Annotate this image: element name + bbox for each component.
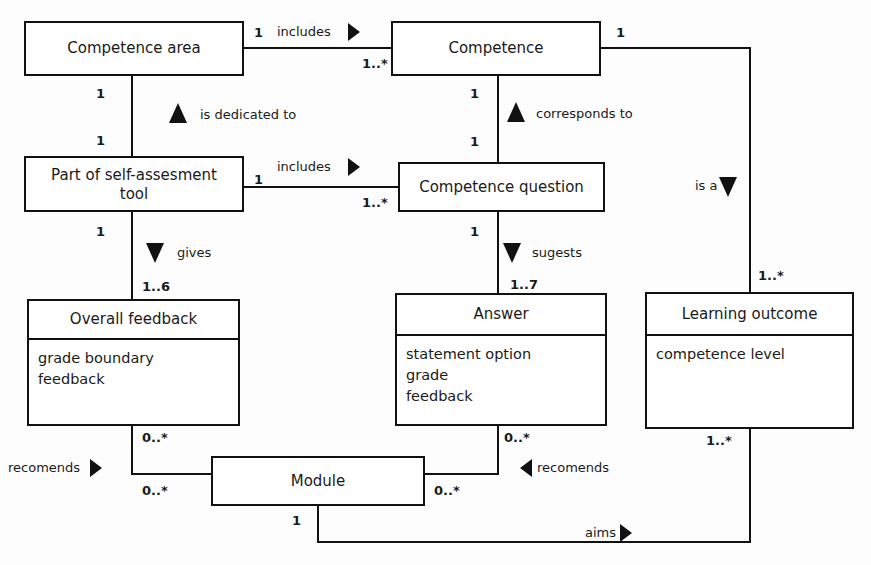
multiplicity-source: 1	[96, 224, 105, 239]
relationship-part-of-tool-gives-overall-feedback: gives11..6	[96, 211, 212, 300]
multiplicity-source: 1	[96, 86, 105, 101]
multiplicity-source: 1	[292, 513, 301, 528]
class-name: tool	[120, 185, 148, 203]
relationship-label: gives	[177, 245, 212, 260]
relationship-arrowhead-right	[348, 23, 360, 41]
multiplicity-target: 1..*	[706, 433, 732, 448]
relationship-arrowhead-right	[90, 459, 102, 477]
relationship-label: recomends	[8, 460, 80, 475]
relationship-arrowhead-left	[520, 459, 532, 477]
class-box-part-of-self-assesment-tool[interactable]: Part of self-assesmenttool	[25, 157, 243, 211]
class-attribute: statement option	[406, 346, 531, 362]
class-box-competence-area[interactable]: Competence area	[25, 22, 243, 75]
multiplicity-target: 1..7	[510, 277, 538, 292]
class-box-learning-outcome[interactable]: Learning outcomecompetence level	[646, 293, 853, 428]
class-attribute: feedback	[406, 388, 473, 404]
uml-class-diagram: includes11..*is dedicated to11includes11…	[0, 0, 871, 565]
class-name: Competence area	[67, 39, 200, 57]
multiplicity-target: 1	[96, 133, 105, 148]
relationship-competence-area-includes-competence: includes11..*	[243, 23, 392, 71]
relationship-overall-feedback-recomends-module: recomends0..*0..*	[8, 425, 212, 498]
class-box-answer[interactable]: Answerstatement optiongradefeedback	[396, 294, 606, 425]
class-name: Part of self-assesment	[51, 166, 217, 184]
relationship-arrowhead-down	[146, 243, 164, 263]
relationship-label: corresponds to	[536, 106, 633, 121]
multiplicity-source: 0..*	[504, 430, 530, 445]
multiplicity-target: 1	[470, 134, 479, 149]
relationship-competence-corresponds-to-competence-question: corresponds to11	[470, 75, 633, 163]
relationship-label: includes	[277, 24, 331, 39]
relationship-label: is dedicated to	[200, 107, 296, 122]
multiplicity-target: 0..*	[142, 483, 168, 498]
relationship-label: is a	[695, 178, 717, 193]
multiplicity-source: 1	[254, 172, 263, 187]
relationship-arrowhead-up	[507, 102, 525, 122]
multiplicity-target: 1..*	[758, 268, 784, 283]
relationship-competence-question-sugests-answer: sugests11..7	[470, 211, 582, 294]
class-attribute: competence level	[656, 346, 785, 362]
class-name: Overall feedback	[70, 310, 198, 328]
relationship-arrowhead-down	[503, 243, 521, 263]
relationship-label: sugests	[532, 245, 582, 260]
multiplicity-target: 1..*	[362, 56, 388, 71]
class-attribute: grade boundary	[38, 350, 154, 366]
relationship-arrowhead-right	[620, 524, 632, 542]
class-attribute: grade	[406, 367, 448, 383]
relationship-label: includes	[277, 159, 331, 174]
relationship-part-of-tool-includes-competence-question: includes11..*	[243, 158, 399, 210]
multiplicity-source: 0..*	[142, 430, 168, 445]
relationship-competence-area-is-dedicated-to-part-of-tool: is dedicated to11	[96, 75, 296, 157]
class-name: Competence	[448, 39, 543, 57]
multiplicity-target: 0..*	[434, 483, 460, 498]
multiplicity-target: 1..*	[362, 195, 388, 210]
relationship-label: aims	[585, 525, 616, 540]
relationship-arrowhead-up	[169, 103, 187, 123]
diagram-canvas: includes11..*is dedicated to11includes11…	[0, 0, 871, 565]
relationship-label: recomends	[537, 460, 609, 475]
relationship-line	[424, 425, 498, 474]
class-box-overall-feedback[interactable]: Overall feedbackgrade boundaryfeedback	[28, 300, 239, 425]
multiplicity-target: 1..6	[142, 279, 170, 294]
class-name: Module	[291, 472, 346, 490]
class-name: Learning outcome	[682, 305, 818, 323]
class-box-competence[interactable]: Competence	[392, 22, 600, 75]
relationship-answer-recomends-module: recomends0..*0..*	[424, 425, 609, 498]
relationship-arrowhead-right	[348, 158, 360, 176]
relationship-arrowhead-down	[719, 177, 737, 197]
relationship-competence-is-a-learning-outcome: is a11..*	[600, 25, 784, 294]
multiplicity-source: 1	[254, 25, 263, 40]
class-name: Competence question	[419, 178, 584, 196]
multiplicity-source: 1	[470, 86, 479, 101]
multiplicity-source: 1	[470, 224, 479, 239]
relationship-line	[600, 48, 750, 293]
class-name: Answer	[473, 305, 529, 323]
class-box-competence-question[interactable]: Competence question	[399, 163, 604, 211]
multiplicity-source: 1	[616, 25, 625, 40]
class-attribute: feedback	[38, 371, 105, 387]
class-box-module[interactable]: Module	[212, 457, 424, 505]
